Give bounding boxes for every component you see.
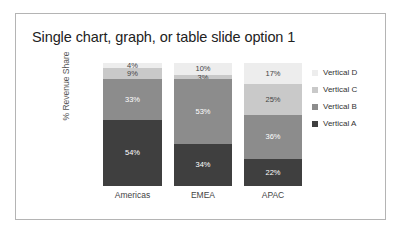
bar-group-apac[interactable]: 17%25%36%22% APAC (244, 56, 302, 200)
bar-segment[interactable]: 34% (174, 144, 232, 186)
bar-segment-value: 54% (125, 149, 140, 157)
bar-group-emea[interactable]: 10%3%53%34% EMEA (174, 56, 232, 200)
legend-item[interactable]: Vertical D (312, 65, 392, 80)
legend-swatch-icon (312, 121, 318, 127)
bar-segment[interactable]: 53% (174, 79, 232, 144)
stacked-bar-chart: % Revenue Share 4%9%33%54% Americas 10%3… (16, 14, 387, 221)
bar-segment-value: 34% (195, 161, 210, 169)
legend-item[interactable]: Vertical C (312, 82, 392, 97)
slide-frame: Single chart, graph, or table slide opti… (15, 13, 386, 220)
stacked-bar: 10%3%53%34% (174, 63, 232, 186)
chart-legend: Vertical DVertical CVertical BVertical A (312, 65, 392, 133)
bar-segment-value: 36% (265, 133, 280, 141)
legend-item-label: Vertical C (323, 85, 357, 94)
bar-segment[interactable]: 25% (244, 84, 302, 115)
bar-segment[interactable]: 54% (103, 120, 162, 186)
stacked-bar: 17%25%36%22% (244, 63, 302, 186)
y-axis-label: % Revenue Share (61, 31, 71, 141)
category-label: Americas (103, 190, 162, 200)
bar-segment-value: 53% (195, 108, 210, 116)
bar-segment[interactable]: 22% (244, 159, 302, 186)
category-label: EMEA (174, 190, 232, 200)
bar-segment-value: 9% (127, 70, 138, 78)
legend-item[interactable]: Vertical B (312, 99, 392, 114)
bar-segment-value: 17% (265, 70, 280, 78)
bar-group-americas[interactable]: 4%9%33%54% Americas (103, 56, 162, 200)
stacked-bar: 4%9%33%54% (103, 63, 162, 186)
legend-item-label: Vertical B (323, 102, 357, 111)
legend-swatch-icon (312, 70, 318, 76)
legend-item-label: Vertical D (323, 68, 357, 77)
bar-segment-value: 33% (125, 96, 140, 104)
bar-segment[interactable]: 33% (103, 79, 162, 120)
category-label: APAC (244, 190, 302, 200)
legend-swatch-icon (312, 104, 318, 110)
bar-segment-value: 10% (195, 65, 210, 73)
legend-swatch-icon (312, 87, 318, 93)
bar-segment[interactable]: 9% (103, 68, 162, 79)
legend-item-label: Vertical A (323, 119, 356, 128)
bar-segment[interactable]: 17% (244, 63, 302, 84)
bar-segment[interactable]: 36% (244, 115, 302, 159)
bar-segment-value: 25% (265, 96, 280, 104)
bar-segment-value: 22% (265, 169, 280, 177)
legend-item[interactable]: Vertical A (312, 116, 392, 131)
